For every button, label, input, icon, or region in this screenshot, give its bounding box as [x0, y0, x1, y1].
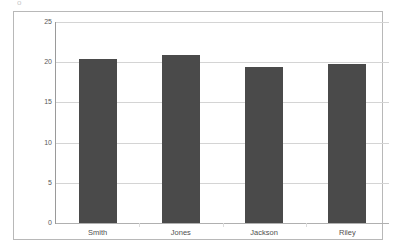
y-tick-label-10: 10 [24, 139, 52, 147]
y-tick-label-5: 5 [24, 179, 52, 187]
y-tick-label-25: 25 [24, 18, 52, 26]
bar-series [56, 22, 389, 223]
bar-jackson [245, 67, 283, 223]
bar-riley [328, 64, 366, 223]
y-tick-label-0: 0 [24, 219, 52, 227]
y-tick-label-20: 20 [24, 58, 52, 66]
category-separator-1 [139, 223, 140, 227]
clipped-text-artifact: o [17, 0, 25, 5]
category-separator-3 [306, 223, 307, 227]
x-tick-label-smith: Smith [56, 226, 139, 240]
bar-smith [79, 59, 117, 223]
category-separator-2 [223, 223, 224, 227]
chart-frame: 0510152025 SmithJonesJacksonRiley [13, 11, 383, 240]
y-tick-label-15: 15 [24, 98, 52, 106]
y-axis-tick-labels: 0510152025 [22, 22, 52, 223]
x-tick-label-jackson: Jackson [223, 226, 306, 240]
x-axis-tick-labels: SmithJonesJacksonRiley [56, 226, 389, 242]
bar-jones [162, 55, 200, 223]
x-tick-label-jones: Jones [139, 226, 222, 240]
x-tick-label-riley: Riley [306, 226, 389, 240]
